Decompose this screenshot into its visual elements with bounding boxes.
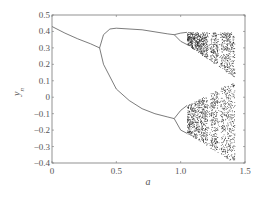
y-tick-label: −0.3 bbox=[34, 142, 51, 152]
y-tick-label: 0.1 bbox=[39, 76, 50, 86]
x-tick-label: 1.5 bbox=[239, 166, 251, 176]
plot-area bbox=[52, 27, 235, 161]
x-axis-label: a bbox=[146, 176, 151, 187]
axes-frame bbox=[52, 15, 245, 163]
x-axis-ticks: 00.51.01.5 bbox=[50, 15, 251, 176]
x-tick-label: 1.0 bbox=[175, 166, 187, 176]
series-period-4-lower bbox=[174, 119, 187, 134]
series-period-4-lower bbox=[174, 105, 187, 118]
y-tick-label: −0.4 bbox=[34, 158, 51, 168]
series-chaotic-region bbox=[187, 32, 235, 160]
y-axis-label: yn bbox=[11, 88, 26, 97]
y-tick-label: 0.4 bbox=[39, 26, 51, 36]
series-period-2-lower bbox=[100, 48, 175, 119]
series-period-4-upper bbox=[174, 32, 187, 34]
series-fixed-point bbox=[52, 27, 100, 48]
y-tick-label: 0.5 bbox=[39, 10, 51, 20]
y-tick-label: −0.2 bbox=[34, 125, 50, 135]
y-tick-label: 0.3 bbox=[39, 43, 51, 53]
y-tick-label: −0.1 bbox=[34, 109, 50, 119]
y-axis-label-subscript: n bbox=[18, 88, 26, 92]
y-tick-label: 0.2 bbox=[39, 59, 50, 69]
x-tick-label: 0 bbox=[50, 166, 55, 176]
series-period-4-upper bbox=[174, 35, 187, 45]
x-tick-label: 0.5 bbox=[111, 166, 123, 176]
y-tick-label: 0 bbox=[46, 92, 51, 102]
bifurcation-chart: 0.50.40.30.20.10−0.1−0.2−0.3−0.4 00.51.0… bbox=[0, 0, 260, 198]
series-period-2-upper bbox=[100, 28, 175, 48]
